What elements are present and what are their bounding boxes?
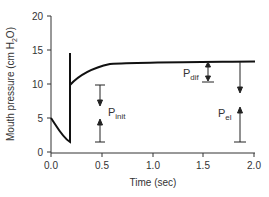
svg-text:10: 10 — [32, 79, 44, 90]
svg-text:1.0: 1.0 — [146, 160, 160, 171]
svg-text:5: 5 — [37, 113, 43, 124]
x-tick-labels: 0.0 0.5 1.0 1.5 2.0 — [44, 160, 261, 171]
svg-text:15: 15 — [32, 45, 44, 56]
y-ticks — [47, 16, 51, 152]
p-init-annotation — [95, 85, 105, 142]
p-el-annotation — [234, 62, 246, 142]
p-dif-label: Pdif — [183, 67, 200, 82]
svg-text:20: 20 — [32, 11, 44, 22]
x-axis-label: Time (sec) — [130, 177, 177, 188]
pressure-curve — [51, 53, 255, 142]
svg-text:0: 0 — [37, 147, 43, 158]
p-el-label: Pel — [218, 107, 232, 122]
y-axis-label: Mouth pressure (cm H2O) — [5, 27, 18, 141]
p-dif-annotation — [202, 62, 214, 82]
svg-text:2.0: 2.0 — [247, 160, 261, 171]
svg-text:0.5: 0.5 — [95, 160, 109, 171]
y-tick-labels: 20 15 10 5 0 — [32, 11, 44, 158]
svg-text:0.0: 0.0 — [44, 160, 58, 171]
svg-text:1.5: 1.5 — [196, 160, 210, 171]
p-init-label: Pinit — [108, 106, 126, 121]
chart: 20 15 10 5 0 0.0 0.5 1.0 1.5 2.0 Time (s… — [0, 0, 269, 197]
x-ticks — [51, 153, 254, 157]
